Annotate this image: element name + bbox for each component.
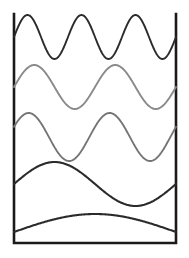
wave-diagram-root <box>0 0 189 258</box>
standing-wave-figure <box>0 0 189 258</box>
